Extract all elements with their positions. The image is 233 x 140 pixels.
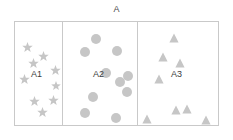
triangle-marker (154, 74, 164, 84)
triangle-marker (169, 33, 179, 43)
cluster-label-a1: A1 (31, 69, 42, 79)
circle-marker (115, 77, 125, 87)
circle-marker (122, 87, 132, 97)
triangle-marker (171, 105, 181, 115)
circle-marker (91, 34, 101, 44)
circle-marker (112, 46, 122, 56)
cluster-label-a3: A3 (171, 69, 182, 79)
star-marker (28, 58, 39, 69)
star-marker (37, 107, 48, 118)
star-marker (38, 51, 49, 62)
triangle-marker (175, 58, 185, 68)
star-marker (50, 65, 61, 76)
star-marker (29, 96, 40, 107)
star-marker (51, 81, 61, 91)
figure-title: A (0, 4, 233, 15)
star-marker (48, 95, 59, 106)
circle-marker (80, 47, 90, 57)
star-marker (19, 74, 30, 85)
cluster-label-a2: A2 (93, 69, 104, 79)
circle-marker (80, 108, 90, 118)
circle-marker (88, 92, 98, 102)
cluster-partition-figure: A A1 A2 A3 (0, 0, 233, 140)
triangle-marker (158, 52, 168, 62)
triangle-marker (142, 114, 152, 124)
star-marker (22, 42, 33, 53)
triangle-marker (201, 115, 211, 125)
circle-marker (111, 113, 121, 123)
triangle-marker (182, 104, 192, 114)
